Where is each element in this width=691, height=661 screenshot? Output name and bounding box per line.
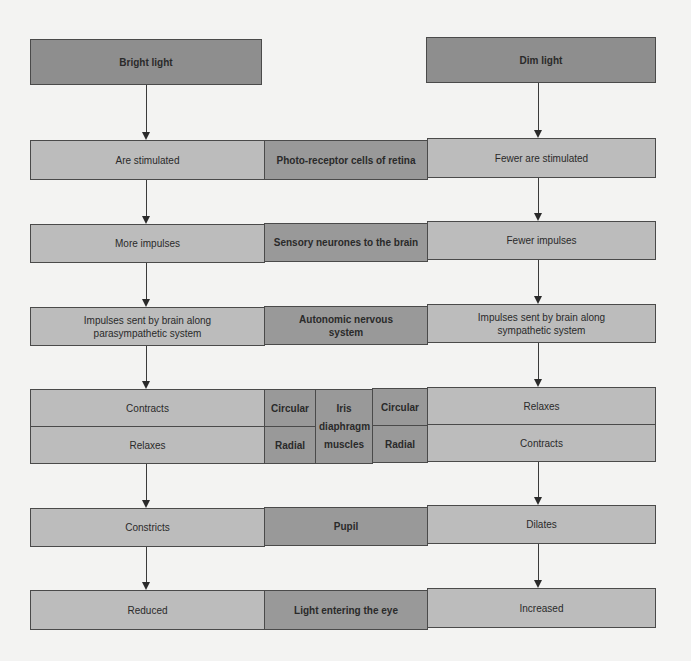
arrow-head-icon — [142, 132, 150, 140]
row-1-right: Fewer are stimulated — [427, 138, 656, 178]
dim-light-label: Dim light — [520, 54, 563, 67]
arrow-line — [538, 544, 539, 580]
arrow-head-icon — [534, 213, 542, 221]
arrow-line — [538, 178, 539, 214]
arrow-line — [146, 180, 147, 216]
arrow-head-icon — [142, 299, 150, 307]
arrow-line — [146, 263, 147, 299]
cell-text: Impulses sent by brain along sympathetic… — [472, 311, 612, 337]
arrow-line — [538, 260, 539, 296]
cell-text: Increased — [520, 602, 564, 615]
cell-text: Dilates — [526, 518, 557, 531]
cell-text: Contracts — [126, 402, 169, 415]
dim-light-box: Dim light — [426, 37, 656, 83]
row-1-middle: Photo-receptor cells of retina — [264, 140, 428, 180]
cell-text: Reduced — [127, 604, 167, 617]
arrow-head-icon — [142, 381, 150, 389]
cell-text: Circular — [271, 402, 309, 415]
circular-right: Circular — [372, 388, 428, 426]
cell-text: Circular — [381, 401, 419, 414]
arrow-line — [146, 346, 147, 381]
row-6-left: Reduced — [30, 590, 265, 630]
arrow-head-icon — [142, 216, 150, 224]
arrow-head-icon — [142, 500, 150, 508]
row-6-middle: Light entering the eye — [264, 590, 428, 630]
circular-left: Circular — [264, 389, 316, 427]
cell-text: Sensory neurones to the brain — [274, 236, 418, 249]
row-3-left: Impulses sent by brain along parasympath… — [30, 307, 265, 346]
iris-right-top: Relaxes — [427, 387, 656, 425]
arrow-line — [146, 464, 147, 500]
row-2-left: More impulses — [30, 224, 265, 263]
arrow-head-icon — [534, 580, 542, 588]
iris-left-bottom: Relaxes — [30, 426, 265, 464]
cell-text: Photo-receptor cells of retina — [277, 154, 416, 167]
arrow-head-icon — [534, 130, 542, 138]
cell-text: More impulses — [115, 237, 180, 250]
row-5-right: Dilates — [427, 505, 656, 544]
row-5-left: Constricts — [30, 508, 265, 547]
cell-text: Autonomic nervous system — [291, 313, 401, 339]
iris-diaphragm-muscles: Iris diaphragm muscles — [315, 389, 373, 464]
row-2-middle: Sensory neurones to the brain — [264, 223, 428, 262]
bright-light-box: Bright light — [30, 39, 262, 85]
cell-text: Light entering the eye — [294, 604, 398, 617]
bright-light-label: Bright light — [119, 56, 172, 69]
iris-right-bottom: Contracts — [427, 424, 656, 462]
row-6-right: Increased — [427, 588, 656, 628]
cell-text: Fewer impulses — [506, 234, 576, 247]
arrow-line — [538, 83, 539, 131]
cell-text: Constricts — [125, 521, 169, 534]
arrow-line — [146, 85, 147, 133]
row-5-middle: Pupil — [264, 507, 428, 546]
cell-text: Are stimulated — [116, 154, 180, 167]
cell-text: Fewer are stimulated — [495, 152, 588, 165]
arrow-line — [538, 343, 539, 379]
radial-right: Radial — [372, 425, 428, 463]
arrow-head-icon — [534, 296, 542, 304]
arrow-head-icon — [534, 497, 542, 505]
arrow-line — [538, 462, 539, 498]
arrow-head-icon — [142, 582, 150, 590]
cell-text: Contracts — [520, 437, 563, 450]
cell-text: Pupil — [334, 520, 358, 533]
iris-left-top: Contracts — [30, 389, 265, 427]
row-3-middle: Autonomic nervous system — [264, 306, 428, 345]
row-1-left: Are stimulated — [30, 140, 265, 180]
cell-text: Impulses sent by brain along parasympath… — [73, 314, 223, 340]
cell-text: Relaxes — [523, 400, 559, 413]
cell-text: Radial — [275, 439, 305, 452]
arrow-head-icon — [534, 379, 542, 387]
cell-text: Relaxes — [129, 439, 165, 452]
cell-text: Radial — [385, 438, 415, 451]
row-3-right: Impulses sent by brain along sympathetic… — [427, 304, 656, 343]
row-2-right: Fewer impulses — [427, 221, 656, 260]
radial-left: Radial — [264, 426, 316, 464]
cell-text: Iris diaphragm muscles — [319, 400, 369, 454]
arrow-line — [146, 547, 147, 582]
